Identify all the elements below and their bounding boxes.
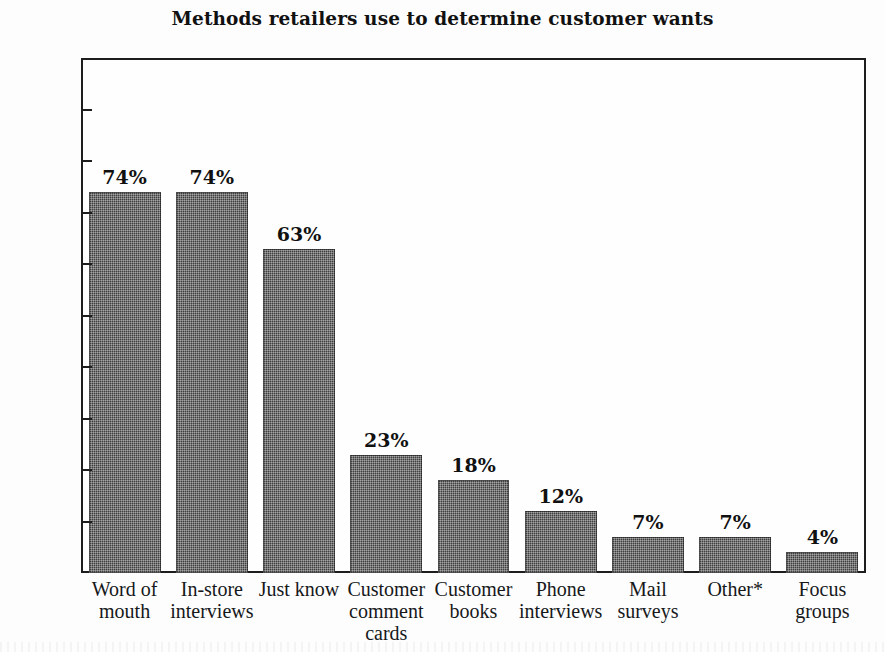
bar-group[interactable]: 74% [89,58,161,573]
x-axis-category-label: Customercommentcards [343,578,430,644]
x-axis-category-label: Customerbooks [430,578,517,622]
bar-value-label: 63% [277,223,322,245]
x-axis-category-label: Mailsurveys [604,578,691,622]
y-axis-tick-mark [81,109,92,111]
bar-group[interactable]: 7% [612,58,684,573]
bar-value-label: 18% [451,454,496,476]
bar-group[interactable]: 63% [263,58,335,573]
bar-chart-figure: Methods retailers use to determine custo… [0,0,885,652]
bar-value-label: 74% [102,166,147,188]
bar-group[interactable]: 7% [699,58,771,573]
y-axis-tick-mark [81,366,92,368]
x-axis-category-line: Focus [779,578,866,600]
bar[interactable] [350,455,422,573]
x-axis-category-line: Mail [604,578,691,600]
bar-group[interactable]: 18% [438,58,510,573]
y-axis-tick-mark [81,263,92,265]
x-axis-category-line: cards [343,622,430,644]
bar[interactable] [525,511,597,573]
x-axis-category-line: interviews [517,600,604,622]
x-axis: Word ofmouthIn-storeinterviewsJust knowC… [81,578,866,652]
bar[interactable] [263,249,335,573]
bar-value-label: 7% [720,511,751,533]
bar[interactable] [89,192,161,573]
y-axis: 0%10%20%30%40%50%60%70%80%90%100% [0,0,81,652]
y-axis-tick-mark [81,418,92,420]
bar[interactable] [612,537,684,573]
y-axis-tick-mark [81,212,92,214]
scan-edge-artifact [0,642,885,652]
x-axis-category-line: In-store [168,578,255,600]
bar-group[interactable]: 23% [350,58,422,573]
bars-layer: 74%74%63%23%18%12%7%7%4% [81,58,866,573]
y-axis-tick-mark [81,469,92,471]
x-axis-category-line: Word of [81,578,168,600]
bar-value-label: 23% [364,429,409,451]
bar-group[interactable]: 4% [786,58,858,573]
x-axis-category-line: groups [779,600,866,622]
y-axis-tick-mark [81,315,92,317]
bar-value-label: 74% [190,166,235,188]
bar[interactable] [438,480,510,573]
bar-value-label: 12% [538,485,583,507]
x-axis-category-line: interviews [168,600,255,622]
y-axis-tick-mark [81,521,92,523]
x-axis-category-line: Customer [430,578,517,600]
x-axis-category-line: Just know [255,578,342,600]
chart-title: Methods retailers use to determine custo… [0,8,885,29]
x-axis-category-label: In-storeinterviews [168,578,255,622]
bar[interactable] [786,552,858,573]
bar[interactable] [699,537,771,573]
x-axis-category-label: Focusgroups [779,578,866,622]
x-axis-category-line: books [430,600,517,622]
x-axis-category-line: surveys [604,600,691,622]
bar-value-label: 7% [632,511,663,533]
bar-group[interactable]: 74% [176,58,248,573]
x-axis-category-line: mouth [81,600,168,622]
x-axis-category-label: Phoneinterviews [517,578,604,622]
bar-group[interactable]: 12% [525,58,597,573]
bar[interactable] [176,192,248,573]
x-axis-category-label: Just know [255,578,342,600]
x-axis-category-line: Phone [517,578,604,600]
x-axis-category-label: Word ofmouth [81,578,168,622]
x-axis-category-line: Customer [343,578,430,600]
bar-value-label: 4% [807,526,838,548]
x-axis-category-line: Other* [692,578,779,600]
y-axis-tick-mark [81,160,92,162]
x-axis-category-line: comment [343,600,430,622]
x-axis-category-label: Other* [692,578,779,600]
